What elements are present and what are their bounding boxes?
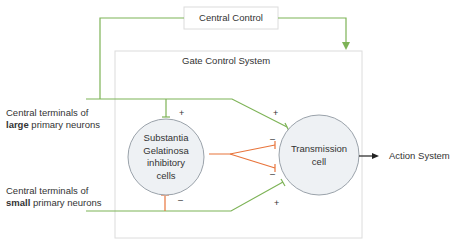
substantia-gelatinosa-label: Substantia Gelatinosa inhibitory cells (128, 132, 204, 182)
sg-line-2: Gelatinosa (128, 145, 204, 158)
central-control-output-line (278, 18, 346, 44)
transmission-line-1: Transmission (279, 143, 359, 156)
sg-line-3: inhibitory (128, 157, 204, 170)
large-rest: primary neurons (29, 119, 100, 130)
action-arrow-head-icon (372, 153, 379, 159)
sg-line-1: Substantia (128, 132, 204, 145)
large-keyword: large (6, 119, 29, 130)
sign-t-from-sg-top: – (270, 135, 275, 144)
sign-t-from-large: + (273, 109, 278, 118)
sign-sg-from-large: + (179, 109, 184, 118)
small-keyword: small (6, 197, 30, 208)
large-neurons-line1: Central terminals of (6, 107, 100, 119)
transmission-line-2: cell (279, 156, 359, 169)
sign-t-from-small: + (274, 199, 279, 208)
sign-t-from-sg-bottom: – (270, 170, 275, 179)
small-neurons-line1: Central terminals of (6, 185, 102, 197)
transmission-cell-label: Transmission cell (279, 143, 359, 168)
arrow-head-icon (342, 42, 350, 50)
large-neurons-label: Central terminals of large primary neuro… (6, 107, 100, 131)
sign-sg-from-small: – (178, 196, 183, 205)
small-neurons-label: Central terminals of small primary neuro… (6, 185, 102, 209)
small-rest: primary neurons (30, 197, 101, 208)
gate-control-system-label: Gate Control System (182, 55, 270, 66)
action-system-label: Action System (389, 150, 450, 162)
central-control-label: Central Control (184, 12, 278, 23)
sg-line-4: cells (128, 170, 204, 183)
